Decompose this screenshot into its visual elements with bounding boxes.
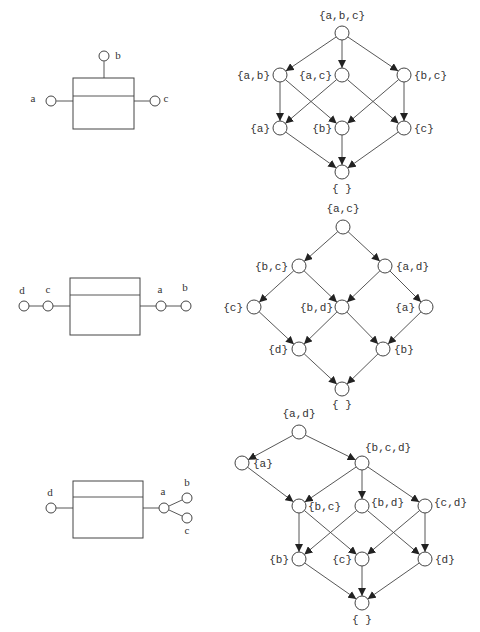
lattice-node-b [292,552,306,566]
edge-ad-to-bcd [305,435,355,460]
lattice-node-b [376,342,390,356]
component-box [73,78,134,129]
port-b [99,51,109,61]
port-label: a [31,92,36,104]
lattice-node-label: { } [352,614,372,626]
lattice-node-label: {a} [250,123,270,135]
component-diagram-3: dabc [46,476,192,538]
lattice-node-label: {b,d} [300,302,333,314]
edge-ad-to-a [248,435,293,459]
lattice-node-label: { } [332,183,352,195]
lattice-graph-1: {a,b,c}{a,b}{a,c}{b,c}{a}{b}{c}{ } [237,10,447,195]
port-d [46,503,56,513]
lattice-graph-2: {a,c}{b,c}{a,d}{c}{b,d}{a}{d}{b}{ } [223,203,433,411]
port-label: b [182,281,188,293]
lattice-node-label: {a,b} [237,70,270,82]
lattice-node-label: {b,c} [255,261,288,273]
lattice-node-label: {b,c,d} [365,442,411,454]
lattice-node-cd [418,499,432,513]
edge-b-to-empty [347,354,378,384]
lattice-node-ac [336,220,350,234]
lattice-node-b [335,121,349,135]
edge-a-to-empty [286,132,337,168]
edge-a-to-bc [248,467,294,502]
port-label: c [164,92,169,104]
edge-bc-to-c [259,271,294,303]
edge-bcd-to-bc [305,467,356,502]
edge-c-to-d [259,312,294,344]
edge-abc-to-bc [348,37,398,71]
lattice-graph-3: {a,d}{a}{b,c,d}{b,c}{b,d}{c,d}{b}{c}{d}{… [235,408,467,626]
diagram-canvas: abc {a,b,c}{a,b}{a,c}{b,c}{a}{b}{c}{ } d… [0,0,480,632]
lattice-node-a [235,456,249,470]
edge-bd-to-b [347,312,378,344]
lattice-node-label: {a,d} [396,261,429,273]
port-a [156,301,166,311]
component-diagram-2: dcab [19,278,191,335]
lattice-node-label: {b} [394,344,414,356]
lattice-node-bc [292,259,306,273]
lattice-node-ad [292,425,306,439]
edge-d-to-empty [368,563,420,599]
lattice-node-ab [273,68,287,82]
edge-abc-to-ab [286,37,336,71]
edge-d-to-empty [304,354,337,384]
port-c [150,96,160,106]
lattice-node-label: {c} [332,554,352,566]
lattice-node-empty [355,596,369,610]
component-box [70,278,140,335]
lattice-node-label: {d} [268,344,288,356]
component-box [73,481,143,538]
port-a [159,503,169,513]
lattice-node-label: {b,d} [371,497,404,509]
edge-ac-to-ad [348,232,380,261]
lattice-node-bc [397,68,411,82]
lattice-node-bcd [355,456,369,470]
edge-bc-to-bd [304,271,337,302]
lattice-node-empty [335,165,349,179]
edge-c-to-empty [348,132,399,168]
edge-bd-to-d [304,312,337,344]
edge-ad-to-bd [347,271,380,302]
edge-ad-to-a [390,271,421,302]
port-c [182,513,192,523]
lattice-node-label: {c,d} [434,497,467,509]
lattice-node-label: {c} [414,123,434,135]
port-label: d [19,284,25,296]
lattice-node-label: {a} [253,458,273,470]
port-d [19,301,29,311]
lattice-node-bc [292,499,306,513]
lattice-node-label: {a,c} [299,70,332,82]
edge-ac-to-bc [304,232,338,262]
port-b [182,493,192,503]
lattice-node-label: {a,c} [326,203,359,215]
lattice-node-c [397,121,411,135]
port-label: c [46,283,51,295]
lattice-node-c [247,300,261,314]
port-label: d [47,486,53,498]
lattice-node-ac [335,68,349,82]
port-connector [169,500,182,506]
component-diagram-1: abc [31,49,169,129]
edge-b-to-empty [305,563,357,599]
lattice-node-label: { } [332,399,352,411]
lattice-node-label: {a} [395,302,415,314]
lattice-node-a [419,300,433,314]
lattice-node-label: {b,c} [414,70,447,82]
port-label: c [185,524,190,536]
port-c [43,301,53,311]
port-connector [169,510,182,516]
lattice-node-ad [378,259,392,273]
lattice-node-empty [335,382,349,396]
lattice-node-label: {b} [312,123,332,135]
port-label: a [161,485,166,497]
lattice-node-label: {c} [223,302,243,314]
port-label: b [115,49,121,61]
lattice-node-label: {a,b,c} [319,10,365,22]
lattice-node-label: {a,d} [282,408,315,420]
lattice-node-label: {d} [435,554,455,566]
lattice-node-d [292,342,306,356]
lattice-node-label: {b,c} [308,501,341,513]
lattice-node-label: {b} [269,554,289,566]
edge-a-to-b [388,312,421,344]
